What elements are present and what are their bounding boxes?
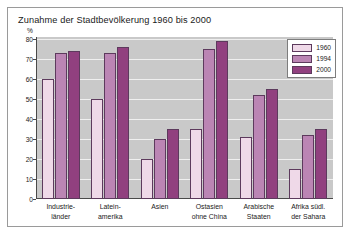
- bar-1960-3: [190, 129, 202, 199]
- bar-1960-5: [289, 169, 301, 199]
- x-axis-label-line2: der Sahara: [278, 212, 338, 222]
- y-axis: 01020304050607080: [8, 8, 33, 208]
- chart-title: Zunahme der Stadtbevölkerung 1960 bis 20…: [18, 15, 211, 25]
- chart-frame: Zunahme der Stadtbevölkerung 1960 bis 20…: [7, 7, 343, 227]
- bar-1994-4: [253, 95, 265, 199]
- y-axis-tick: [33, 199, 36, 200]
- bar-1994-3: [203, 49, 215, 199]
- bar-1994-2: [154, 139, 166, 199]
- y-axis-tick: [33, 119, 36, 120]
- bar-1960-0: [42, 79, 54, 199]
- bar-group: [42, 37, 80, 199]
- bar-1960-4: [240, 137, 252, 199]
- bar-2000-5: [315, 129, 327, 199]
- x-axis-category-label: Afrika südl.der Sahara: [278, 202, 338, 221]
- y-axis-tick: [33, 99, 36, 100]
- y-axis-tick-label: 40: [26, 116, 33, 123]
- y-axis-tick-label: 30: [26, 136, 33, 143]
- bar-2000-4: [266, 89, 278, 199]
- bar-1960-1: [91, 99, 103, 199]
- y-axis-tick-label: 10: [26, 176, 33, 183]
- y-axis-line: [36, 37, 37, 199]
- bar-group: [289, 37, 327, 199]
- y-axis-tick: [33, 139, 36, 140]
- y-axis-tick-label: 70: [26, 56, 33, 63]
- bar-2000-0: [68, 51, 80, 199]
- bar-1994-0: [55, 53, 67, 199]
- x-axis-label-line1: Afrika südl.: [278, 202, 338, 212]
- y-axis-tick: [33, 59, 36, 60]
- y-axis-tick: [33, 39, 36, 40]
- y-axis-tick-label: 60: [26, 76, 33, 83]
- bar-group: [190, 37, 228, 199]
- y-axis-tick: [33, 79, 36, 80]
- bar-1960-2: [141, 159, 153, 199]
- y-axis-tick: [33, 179, 36, 180]
- y-axis-tick: [33, 159, 36, 160]
- y-axis-tick-label: 20: [26, 156, 33, 163]
- bar-1994-5: [302, 135, 314, 199]
- bar-2000-3: [216, 41, 228, 199]
- y-axis-tick-label: 50: [26, 96, 33, 103]
- bar-2000-2: [167, 129, 179, 199]
- bar-group: [141, 37, 179, 199]
- bar-group: [240, 37, 278, 199]
- y-axis-tick-label: 80: [26, 36, 33, 43]
- bar-2000-1: [117, 47, 129, 199]
- bar-1994-1: [104, 53, 116, 199]
- x-axis-label-line2: amerika: [80, 212, 140, 222]
- bar-group: [91, 37, 129, 199]
